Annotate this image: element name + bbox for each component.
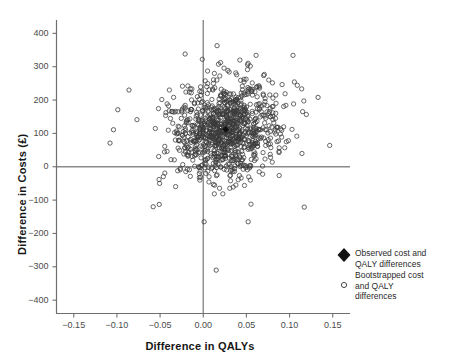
x-tick-label: −0.05 bbox=[140, 320, 180, 330]
legend-bootstrapped-line-3: differences bbox=[355, 291, 449, 302]
x-tick-label: −0.15 bbox=[54, 320, 94, 330]
cost-effectiveness-plane-chart bbox=[0, 0, 449, 364]
chart-legend: Observed cost and QALY differences Boots… bbox=[355, 248, 449, 303]
y-tick-label: 300 bbox=[15, 61, 49, 71]
y-tick-label: 100 bbox=[15, 128, 49, 138]
legend-bootstrapped-line-2: and QALY bbox=[355, 281, 449, 292]
legend-observed-line-2: QALY differences bbox=[355, 259, 449, 270]
x-axis-title: Difference in QALYs bbox=[0, 340, 400, 352]
x-tick-label: −0.10 bbox=[97, 320, 137, 330]
x-tick-label: 0.15 bbox=[313, 320, 353, 330]
legend-entry-observed: Observed cost and QALY differences bbox=[355, 248, 449, 269]
x-tick-label: 0.00 bbox=[183, 320, 223, 330]
y-tick-label: 0 bbox=[15, 161, 49, 171]
y-tick-label: −400 bbox=[15, 295, 49, 305]
y-tick-label: 400 bbox=[15, 28, 49, 38]
y-tick-label: −200 bbox=[15, 228, 49, 238]
x-tick-label: 0.05 bbox=[226, 320, 266, 330]
y-tick-label: 200 bbox=[15, 95, 49, 105]
y-tick-label: −300 bbox=[15, 261, 49, 271]
x-tick-label: 0.10 bbox=[270, 320, 310, 330]
chart-background bbox=[0, 0, 449, 364]
y-tick-label: −100 bbox=[15, 195, 49, 205]
legend-entry-bootstrapped: Bootstrapped cost and QALY differences bbox=[355, 270, 449, 302]
legend-observed-line-1: Observed cost and bbox=[355, 248, 449, 259]
legend-bootstrapped-line-1: Bootstrapped cost bbox=[355, 270, 449, 281]
